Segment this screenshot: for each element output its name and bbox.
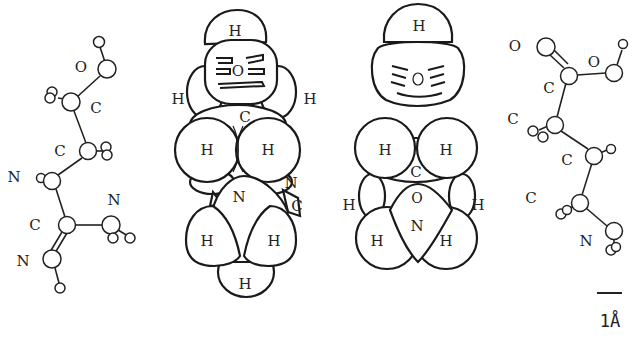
atom-label: O xyxy=(509,37,521,55)
atom-label: H xyxy=(342,196,355,214)
hydrogen-atom xyxy=(619,40,628,49)
atom-label: N xyxy=(7,168,20,186)
atom-label: C xyxy=(29,216,40,234)
atom-label: O xyxy=(588,53,600,71)
hydrogen-atom xyxy=(538,132,548,142)
hydrogen-atom xyxy=(94,37,105,48)
atom-label: H xyxy=(303,90,316,108)
oxygen-atom xyxy=(606,65,623,82)
hydrogen-atom xyxy=(528,126,538,136)
scale-bar: 1Å xyxy=(597,293,622,331)
atom-label: C xyxy=(239,108,250,126)
atom-label: H xyxy=(267,232,280,250)
atom-label: N xyxy=(410,217,423,235)
atom-label: C xyxy=(291,197,302,215)
atom-label: C xyxy=(54,142,65,160)
atom-label: O xyxy=(232,62,244,80)
ball-and-stick-right: O O C C C C N xyxy=(507,37,627,255)
atom-label: H xyxy=(171,90,184,108)
carbon-atom xyxy=(62,93,80,111)
hydrogen-atom xyxy=(108,233,118,243)
atom-label: O xyxy=(75,58,87,76)
atom-label: H xyxy=(439,232,452,250)
hydrogen-atom xyxy=(612,243,621,252)
atom-label: O xyxy=(411,190,422,206)
atom-label: N xyxy=(284,174,297,192)
atom-label: H xyxy=(378,141,391,159)
atom-label: C xyxy=(561,151,572,169)
oxygen-atom xyxy=(98,60,116,78)
hydrogen-atom xyxy=(607,145,616,154)
carbon-atom xyxy=(561,68,578,85)
atom-label: H xyxy=(370,232,383,250)
hydrogen-atom xyxy=(55,283,65,293)
nitrogen-atom xyxy=(606,223,623,240)
space-filling-left: H O H H C H H N N C H H H xyxy=(171,10,316,297)
carbon-atom xyxy=(547,117,564,134)
oxygen-atom xyxy=(537,38,555,56)
atom-label: H xyxy=(238,275,251,293)
hydrogen-atom xyxy=(45,93,55,103)
atom-label: H xyxy=(200,141,213,159)
nitrogen-atom xyxy=(102,216,120,234)
atom-label: C xyxy=(410,163,421,181)
scale-bar-label: 1Å xyxy=(600,310,620,331)
nitrogen-atom xyxy=(43,250,61,268)
hydrogen-atom xyxy=(102,150,112,160)
atom-label: N xyxy=(107,191,120,209)
space-filling-right: H H H C H H O N H H xyxy=(342,4,484,269)
hydrogen-atom xyxy=(563,206,572,215)
molecular-model-figure: O C C N N C N xyxy=(0,0,634,348)
atom-label: C xyxy=(507,110,518,128)
atom-label: N xyxy=(579,232,592,250)
atom-label: C xyxy=(543,79,554,97)
atom-label: H xyxy=(471,196,484,214)
carbon-atom xyxy=(59,217,76,234)
atom-label: H xyxy=(200,232,213,250)
atom-label: H xyxy=(261,141,274,159)
ball-and-stick-left: O C C N N C N xyxy=(7,37,135,294)
atom-label: H xyxy=(412,17,425,35)
carbon-atom xyxy=(572,195,589,212)
carbon-atom xyxy=(586,148,603,165)
atom-label: C xyxy=(525,189,536,207)
carbon-atom xyxy=(80,143,97,160)
atom-label: C xyxy=(90,99,101,117)
atom-label: N xyxy=(232,188,245,206)
hydrogen-atom xyxy=(125,233,135,243)
atom-label: H xyxy=(439,141,452,159)
atom-label: N xyxy=(16,252,29,270)
nitrogen-atom xyxy=(44,173,61,190)
atom-label: H xyxy=(228,22,241,40)
